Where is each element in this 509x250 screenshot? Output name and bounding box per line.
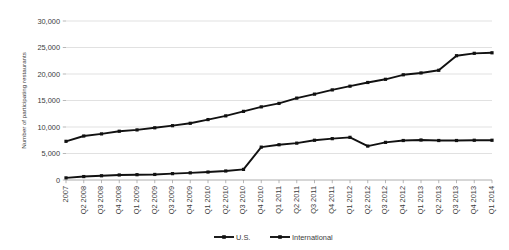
x-tick-label: Q2 2010 bbox=[221, 186, 230, 214]
y-tick-label: 15,000 bbox=[37, 96, 60, 105]
data-point-marker bbox=[419, 138, 422, 141]
chart-container: 05,00010,00015,00020,00025,00030,000 200… bbox=[0, 0, 509, 250]
data-point-marker bbox=[100, 132, 103, 135]
chart-legend: U.S.International bbox=[214, 233, 333, 242]
data-point-marker bbox=[384, 141, 387, 144]
data-point-marker bbox=[366, 144, 369, 147]
x-tick-label: Q1 2014 bbox=[487, 186, 496, 214]
x-tick-label: Q2 2008 bbox=[79, 186, 88, 214]
data-point-marker bbox=[206, 170, 209, 173]
y-tick-label: 20,000 bbox=[37, 70, 60, 79]
data-point-marker bbox=[490, 139, 493, 142]
line-chart: 05,00010,00015,00020,00025,00030,000 200… bbox=[0, 0, 509, 250]
data-point-marker bbox=[366, 81, 369, 84]
x-tick-label: Q3 2008 bbox=[96, 186, 105, 214]
x-axis-tick-labels: 2007Q2 2008Q3 2008Q4 2008Q1 2009Q2 2009Q… bbox=[61, 186, 496, 214]
data-point-marker bbox=[313, 139, 316, 142]
x-tick-label: Q4 2013 bbox=[469, 186, 478, 214]
x-tick-label: Q1 2010 bbox=[203, 186, 212, 214]
data-point-marker bbox=[135, 173, 138, 176]
x-tick-label: Q1 2011 bbox=[274, 186, 283, 214]
data-point-marker bbox=[64, 140, 67, 143]
data-point-marker bbox=[473, 139, 476, 142]
data-point-marker bbox=[118, 130, 121, 133]
x-tick-label: Q4 2012 bbox=[398, 186, 407, 214]
data-point-marker bbox=[260, 105, 263, 108]
x-tick-label: Q2 2009 bbox=[150, 186, 159, 214]
data-point-marker bbox=[224, 114, 227, 117]
data-point-marker bbox=[295, 97, 298, 100]
data-point-marker bbox=[384, 78, 387, 81]
x-tick-label: Q4 2009 bbox=[185, 186, 194, 214]
y-tick-label: 25,000 bbox=[37, 43, 60, 52]
data-point-marker bbox=[437, 69, 440, 72]
x-tick-label: Q1 2013 bbox=[416, 186, 425, 214]
data-point-marker bbox=[473, 52, 476, 55]
x-tick-label: Q3 2013 bbox=[451, 186, 460, 214]
data-point-marker bbox=[348, 85, 351, 88]
data-point-marker bbox=[277, 102, 280, 105]
data-point-marker bbox=[402, 73, 405, 76]
x-tick-label: Q4 2010 bbox=[256, 186, 265, 214]
series-line-international bbox=[66, 53, 492, 142]
data-point-marker bbox=[313, 93, 316, 96]
data-point-marker bbox=[153, 173, 156, 176]
x-tick-label: Q4 2008 bbox=[114, 186, 123, 214]
data-point-marker bbox=[260, 146, 263, 149]
y-tick-label: 10,000 bbox=[37, 123, 60, 132]
y-tick-label: 5,000 bbox=[42, 149, 61, 158]
data-point-marker bbox=[189, 122, 192, 125]
data-point-marker bbox=[118, 173, 121, 176]
data-point-marker bbox=[455, 139, 458, 142]
data-point-marker bbox=[224, 169, 227, 172]
x-tick-label: Q3 2009 bbox=[167, 186, 176, 214]
data-point-marker bbox=[490, 51, 493, 54]
data-point-marker bbox=[402, 139, 405, 142]
data-point-marker bbox=[100, 174, 103, 177]
y-axis-title: Number of participating restaurants bbox=[20, 52, 27, 149]
legend-marker-international bbox=[278, 235, 282, 239]
data-point-marker bbox=[419, 71, 422, 74]
y-tick-label: 0 bbox=[56, 176, 60, 185]
x-tick-label: Q3 2012 bbox=[380, 186, 389, 214]
data-point-marker bbox=[171, 172, 174, 175]
data-point-marker bbox=[242, 168, 245, 171]
data-point-marker bbox=[455, 54, 458, 57]
legend-label-international: International bbox=[292, 233, 333, 242]
data-point-marker bbox=[295, 142, 298, 145]
x-tick-label: Q2 2012 bbox=[363, 186, 372, 214]
data-series bbox=[64, 51, 493, 179]
data-point-marker bbox=[206, 118, 209, 121]
x-tick-label: Q3 2010 bbox=[238, 186, 247, 214]
data-point-marker bbox=[171, 124, 174, 127]
data-point-marker bbox=[82, 134, 85, 137]
x-tick-label: Q2 2011 bbox=[292, 186, 301, 214]
data-point-marker bbox=[437, 139, 440, 142]
x-tick-label: Q4 2011 bbox=[327, 186, 336, 214]
data-point-marker bbox=[82, 175, 85, 178]
x-tick-label: Q1 2012 bbox=[345, 186, 354, 214]
y-tick-label: 30,000 bbox=[37, 17, 60, 26]
data-point-marker bbox=[277, 143, 280, 146]
gridlines bbox=[66, 21, 492, 154]
data-point-marker bbox=[64, 176, 67, 179]
y-axis-tick-labels: 05,00010,00015,00020,00025,00030,000 bbox=[37, 17, 60, 185]
data-point-marker bbox=[331, 137, 334, 140]
data-point-marker bbox=[331, 88, 334, 91]
x-tick-label: Q1 2009 bbox=[132, 186, 141, 214]
data-point-marker bbox=[242, 110, 245, 113]
y-axis-title-text: Number of participating restaurants bbox=[20, 52, 27, 149]
data-point-marker bbox=[189, 171, 192, 174]
x-tick-label: 2007 bbox=[61, 186, 70, 202]
x-tick-label: Q2 2013 bbox=[434, 186, 443, 214]
data-point-marker bbox=[348, 136, 351, 139]
data-point-marker bbox=[153, 126, 156, 129]
legend-marker-u-s bbox=[222, 235, 226, 239]
data-point-marker bbox=[135, 128, 138, 131]
legend-label-u-s: U.S. bbox=[236, 233, 250, 242]
x-tick-label: Q3 2011 bbox=[309, 186, 318, 214]
